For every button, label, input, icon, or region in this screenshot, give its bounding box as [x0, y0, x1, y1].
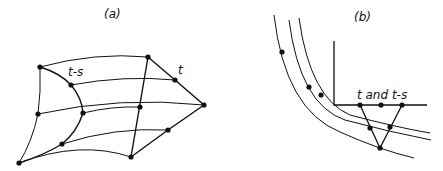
diagram-canvas [0, 0, 443, 171]
panel-b-title: (b) [354, 11, 371, 23]
panel-a-row-3b [83, 107, 140, 113]
panel-a-row-2 [71, 78, 175, 85]
panel-b-curve-2 [289, 20, 431, 140]
panel-a-grid [19, 56, 204, 163]
panel-b-curves [274, 15, 431, 158]
panel-b-curve-1 [274, 15, 414, 158]
panel-b-axis-label: t and t-s [357, 89, 407, 101]
panel-a-label-t: t [178, 64, 183, 76]
panel-a-row-3 [38, 102, 204, 114]
panel-a-title: (a) [104, 8, 121, 20]
panel-a-row-1 [40, 56, 148, 67]
panel-a-label-t-minus-s: t-s [68, 66, 83, 78]
panel-a-ts-curve [19, 67, 83, 163]
figure: (a) t-s t (b) t and t-s [0, 0, 443, 171]
